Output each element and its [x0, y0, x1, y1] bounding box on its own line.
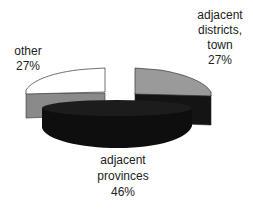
label-adjacent-districts: adjacent districts, town 27% [190, 8, 250, 68]
slice-adjacent-provinces [42, 100, 192, 148]
label-adjacent-provinces: adjacent provinces 46% [88, 152, 158, 200]
label-other: other 27% [8, 44, 48, 74]
